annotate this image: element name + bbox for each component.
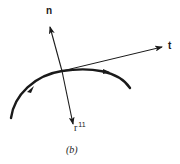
second-derivative-vector-arrow: [62, 71, 73, 124]
second-derivative-label-sup: 11: [78, 121, 85, 128]
second-derivative-label-base: r: [74, 122, 77, 133]
curve-diagram: [0, 0, 180, 164]
figure-caption: (b): [66, 145, 78, 155]
second-derivative-label: r11: [74, 121, 86, 133]
normal-vector-arrow: [50, 27, 62, 71]
tangent-vector-arrow: [62, 47, 162, 71]
tangent-label: t: [168, 41, 171, 51]
normal-label: n: [46, 6, 52, 16]
